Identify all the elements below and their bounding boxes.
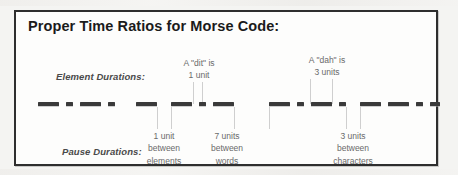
caption-dah: A "dah" is 3 units xyxy=(290,54,364,79)
morse-mark-dah xyxy=(360,102,381,106)
caption-element-gap-line3: elements xyxy=(139,155,189,167)
caption-dit-line1: A "dit" is xyxy=(164,57,234,69)
morse-mark-dah xyxy=(269,102,290,106)
caption-char-gap-line2: between xyxy=(320,142,386,154)
caption-char-gap: 3 units between characters xyxy=(320,130,386,167)
caption-dah-line1: A "dah" is xyxy=(290,54,364,66)
caption-element-gap-line2: between xyxy=(139,142,189,154)
leader-line-char-gap-left xyxy=(346,107,347,129)
caption-word-gap-line1: 7 units xyxy=(201,130,253,142)
leader-line-dah-right xyxy=(332,79,333,104)
leader-line-dit-right xyxy=(202,82,203,104)
leader-line-element-gap-right xyxy=(171,107,172,129)
morse-mark-dit xyxy=(339,102,346,106)
caption-word-gap-line2: between xyxy=(201,142,253,154)
pause-durations-label: Pause Durations: xyxy=(62,146,142,157)
morse-mark-dah xyxy=(388,102,409,106)
leader-line-dit-left xyxy=(193,82,194,104)
caption-element-gap: 1 unit between elements xyxy=(139,130,189,167)
morse-mark-dit xyxy=(199,102,206,106)
morse-mark-dit xyxy=(108,102,115,106)
morse-mark-dah xyxy=(38,102,59,106)
morse-mark-dah xyxy=(213,102,234,106)
caption-word-gap-line3: words xyxy=(201,155,253,167)
leader-line-word-gap-right xyxy=(269,107,270,129)
morse-mark-dit xyxy=(297,102,304,106)
caption-word-gap: 7 units between words xyxy=(201,130,253,167)
morse-mark-dah xyxy=(136,102,157,106)
caption-char-gap-line1: 3 units xyxy=(320,130,386,142)
morse-mark-dah xyxy=(80,102,101,106)
leader-line-char-gap-right xyxy=(360,107,361,129)
morse-mark-dah xyxy=(311,102,332,106)
morse-mark-dah xyxy=(171,102,192,106)
figure-title: Proper Time Ratios for Morse Code: xyxy=(28,18,279,34)
element-durations-label: Element Durations: xyxy=(56,71,145,82)
caption-dit: A "dit" is 1 unit xyxy=(164,57,234,82)
morse-mark-dit xyxy=(416,102,423,106)
caption-element-gap-line1: 1 unit xyxy=(139,130,189,142)
scan-artifact-bottom xyxy=(0,169,458,175)
caption-char-gap-line3: characters xyxy=(320,155,386,167)
leader-line-dah-left xyxy=(310,79,311,104)
leader-line-element-gap-left xyxy=(157,107,158,129)
caption-dit-line2: 1 unit xyxy=(164,69,234,81)
morse-mark-dit xyxy=(66,102,73,106)
scan-artifact-top xyxy=(0,0,458,6)
caption-dah-line2: 3 units xyxy=(290,66,364,78)
morse-mark-dah xyxy=(430,102,440,106)
leader-line-word-gap-left xyxy=(234,107,235,129)
figure-container: Proper Time Ratios for Morse Code: Eleme… xyxy=(14,10,438,166)
